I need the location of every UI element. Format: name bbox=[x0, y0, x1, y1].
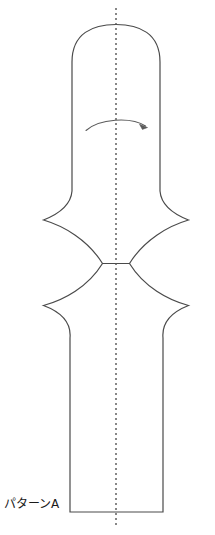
pattern-a-diagram-canvas bbox=[0, 0, 215, 535]
diagram-root: パターンA bbox=[0, 0, 215, 535]
canvas-background bbox=[0, 0, 215, 535]
pattern-label: パターンA bbox=[4, 497, 59, 511]
